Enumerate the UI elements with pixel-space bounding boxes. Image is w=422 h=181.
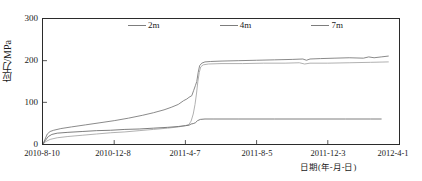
legend-item-7m: 7m: [311, 21, 343, 30]
series-line-4m: [43, 62, 388, 144]
legend-label-2m: 2m: [148, 21, 160, 30]
chart-canvas: [43, 19, 399, 144]
legend-item-4m: 4m: [220, 21, 252, 30]
legend-item-2m: 2m: [128, 21, 160, 30]
x-tick-5: 2012-4-1: [364, 148, 422, 158]
legend-line-icon: [311, 25, 329, 26]
series-line-7m: [43, 119, 381, 144]
legend-label-4m: 4m: [240, 21, 252, 30]
chart-legend: 2m 4m 7m: [128, 19, 343, 32]
legend-line-icon: [128, 25, 146, 26]
legend-label-7m: 7m: [331, 21, 343, 30]
x-tick-2: 2011-4-7: [149, 148, 221, 158]
y-tick-200: 200: [12, 56, 38, 65]
x-axis-ticks: 2010-8-10 2010-12-8 2011-4-7 2011-8-5 20…: [0, 148, 422, 162]
legend-line-icon: [220, 25, 238, 26]
y-tick-300: 300: [12, 14, 38, 23]
plot-area: [42, 18, 400, 145]
x-axis-label: 日期(年-月-日): [300, 162, 356, 172]
x-tick-0: 2010-8-10: [6, 148, 78, 158]
y-tick-100: 100: [12, 98, 38, 107]
x-tick-4: 2011-12-3: [292, 148, 364, 158]
chart-figure: 应力/MPa 300 200 100 0 2m 4m 7m 2010-8-10 …: [0, 0, 422, 181]
x-tick-3: 2011-8-5: [221, 148, 293, 158]
x-tick-1: 2010-12-8: [77, 148, 149, 158]
